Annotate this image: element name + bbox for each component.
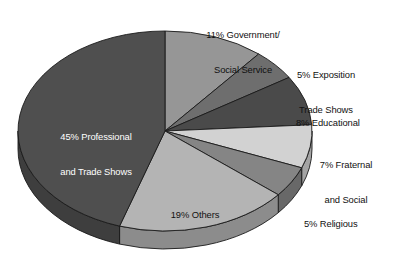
slice-label-fraternal-line1: 7% Fraternal bbox=[302, 159, 390, 171]
slice-label-educational-line1: 8% Educational bbox=[296, 117, 392, 129]
slice-label-religious: 5% Religious bbox=[304, 195, 392, 253]
slice-label-others-line1: 19% Others bbox=[144, 209, 246, 221]
slice-label-professional: 45% Professional and Trade Shows bbox=[28, 108, 164, 201]
slice-label-exposition-line1: 5% Exposition bbox=[268, 69, 384, 81]
slice-label-government-line1: 11% Government/ bbox=[182, 29, 304, 41]
slice-label-professional-line1: 45% Professional bbox=[28, 131, 164, 143]
pie-chart-figure: 11% Government/ Social Service 5% Exposi… bbox=[0, 0, 394, 259]
slice-label-professional-line2: and Trade Shows bbox=[28, 166, 164, 178]
slice-label-religious-line1: 5% Religious bbox=[304, 218, 392, 230]
